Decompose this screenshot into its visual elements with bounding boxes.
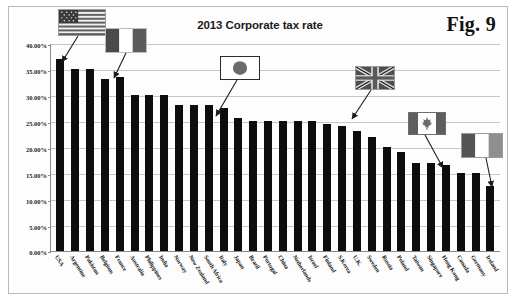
bar-slot xyxy=(409,44,424,251)
y-axis-tick-label: 5.00% xyxy=(29,224,47,231)
bar[interactable] xyxy=(131,95,139,251)
bar-series xyxy=(51,44,500,251)
x-axis-label-slot: Sweden xyxy=(364,253,379,305)
x-axis-label-slot: Poland xyxy=(394,253,409,305)
canada-flag-icon xyxy=(408,112,446,135)
bar[interactable] xyxy=(264,121,272,251)
bar-slot xyxy=(157,44,172,251)
figure-number-label: Fig. 9 xyxy=(446,13,496,36)
bar[interactable] xyxy=(383,147,391,251)
france-flag-icon xyxy=(105,28,147,53)
x-axis-label-slot: Portugal xyxy=(260,253,275,305)
bar-slot xyxy=(320,44,335,251)
x-axis-label-slot: USA xyxy=(52,253,67,305)
bar[interactable] xyxy=(160,95,168,251)
bar-slot xyxy=(83,44,98,251)
bar[interactable] xyxy=(353,131,361,251)
bar-slot xyxy=(394,44,409,251)
x-axis-label-slot: Philippines xyxy=(141,253,156,305)
x-axis-label-slot: U.K. xyxy=(349,253,364,305)
x-axis-label-slot: Israel xyxy=(305,253,320,305)
x-axis-tick-label: Italy xyxy=(218,254,229,267)
x-axis-label-slot: Ireland xyxy=(483,253,498,305)
y-axis-tick-label: 40.00% xyxy=(26,42,47,49)
bar[interactable] xyxy=(308,121,316,251)
x-axis-label-slot: New Zealand xyxy=(186,253,201,305)
bar[interactable] xyxy=(71,69,79,251)
bar-slot xyxy=(186,44,201,251)
bar[interactable] xyxy=(190,105,198,251)
bar[interactable] xyxy=(323,124,331,251)
y-axis-tick-label: 0.00% xyxy=(29,249,47,256)
bar[interactable] xyxy=(56,59,64,251)
x-axis-tick-label: Ireland xyxy=(485,254,500,273)
bar-slot xyxy=(68,44,83,251)
bar[interactable] xyxy=(234,118,242,251)
bar-slot xyxy=(335,44,350,251)
y-axis-tick-label: 35.00% xyxy=(26,68,47,75)
x-axis-label-slot: Australia xyxy=(126,253,141,305)
x-axis-tick-label: India xyxy=(158,254,170,268)
bar[interactable] xyxy=(442,165,450,251)
x-axis-label-slot: Japan xyxy=(230,253,245,305)
y-axis-tick-label: 10.00% xyxy=(26,198,47,205)
x-axis-label-slot: Taiwan xyxy=(409,253,424,305)
bar-slot xyxy=(261,44,276,251)
bar[interactable] xyxy=(412,163,420,251)
bar-slot xyxy=(172,44,187,251)
bar-slot xyxy=(290,44,305,251)
x-axis-label-slot: Singapore xyxy=(423,253,438,305)
bar[interactable] xyxy=(397,152,405,251)
x-axis-label-slot: Pakistan xyxy=(82,253,97,305)
bar[interactable] xyxy=(294,121,302,251)
ireland-flag-icon xyxy=(461,133,503,158)
x-axis-label-slot: S.Korea xyxy=(334,253,349,305)
bar-slot xyxy=(97,44,112,251)
bar-slot xyxy=(305,44,320,251)
bar-slot xyxy=(275,44,290,251)
x-axis-label-slot: Finland xyxy=(319,253,334,305)
bar[interactable] xyxy=(249,121,257,251)
y-axis-tick-label: 20.00% xyxy=(26,146,47,153)
bar-slot xyxy=(53,44,68,251)
bar-slot xyxy=(424,44,439,251)
x-axis-tick-label: China xyxy=(277,254,290,270)
x-axis-label-slot: Brazil xyxy=(245,253,260,305)
bar[interactable] xyxy=(101,79,109,251)
x-axis-label-slot: Germany xyxy=(468,253,483,305)
x-axis-label-slot: Italy xyxy=(215,253,230,305)
x-axis-tick-label: Israel xyxy=(307,254,320,269)
x-axis-label-slot: Russia xyxy=(379,253,394,305)
bar-slot xyxy=(112,44,127,251)
x-axis-label-slot: Belgium xyxy=(97,253,112,305)
x-axis-label-slot: Canada xyxy=(453,253,468,305)
bar[interactable] xyxy=(486,186,494,251)
bar[interactable] xyxy=(86,69,94,251)
bar[interactable] xyxy=(145,95,153,251)
plot-area: 40.00%35.00%30.00%25.00%20.00%15.00%10.0… xyxy=(50,44,500,252)
x-axis-tick-label: U.K. xyxy=(352,254,363,267)
bar[interactable] xyxy=(472,173,480,251)
bar[interactable] xyxy=(175,105,183,251)
bar-slot xyxy=(127,44,142,251)
usa-flag-icon xyxy=(58,9,106,36)
bar[interactable] xyxy=(338,126,346,251)
bar[interactable] xyxy=(457,173,465,251)
bar-slot xyxy=(142,44,157,251)
x-axis-label-slot: South Africa xyxy=(201,253,216,305)
y-axis-tick-label: 30.00% xyxy=(26,94,47,101)
bar[interactable] xyxy=(427,163,435,251)
bar[interactable] xyxy=(220,108,228,251)
x-axis-label-slot: China xyxy=(275,253,290,305)
x-axis-tick-label: USA xyxy=(54,254,65,267)
chart-title: 2013 Corporate tax rate xyxy=(150,19,370,31)
bar[interactable] xyxy=(279,121,287,251)
x-axis-label-slot: Hong Kong xyxy=(438,253,453,305)
bar[interactable] xyxy=(116,77,124,251)
uk-flag-icon xyxy=(355,66,395,90)
bar[interactable] xyxy=(368,137,376,251)
bar-slot xyxy=(201,44,216,251)
y-axis-tick-label: 25.00% xyxy=(26,120,47,127)
x-axis-tick-label: Japan xyxy=(233,254,246,270)
bar[interactable] xyxy=(205,105,213,251)
